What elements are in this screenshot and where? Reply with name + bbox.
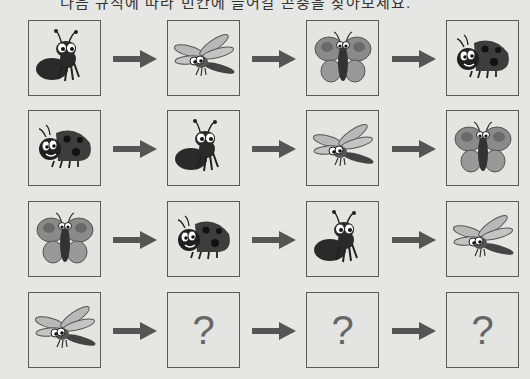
dragonfly-icon <box>32 297 98 363</box>
right-arrow-icon <box>392 231 436 249</box>
butterfly-icon <box>450 115 516 181</box>
butterfly-card <box>306 20 379 96</box>
dragonfly-card <box>28 292 101 368</box>
right-arrow-icon <box>113 50 157 68</box>
right-arrow-icon <box>252 50 296 68</box>
ant-card <box>167 110 240 186</box>
answer-blank-card[interactable]: ? <box>446 292 519 368</box>
dragonfly-icon <box>171 25 237 91</box>
dragonfly-card <box>306 110 379 186</box>
right-arrow-icon <box>113 140 157 158</box>
right-arrow-icon <box>113 231 157 249</box>
butterfly-icon <box>32 206 98 272</box>
right-arrow-icon <box>392 140 436 158</box>
answer-blank-card[interactable]: ? <box>306 292 379 368</box>
question-mark: ? <box>192 310 214 350</box>
ant-icon <box>310 206 376 272</box>
ant-icon <box>171 115 237 181</box>
dragonfly-icon <box>450 206 516 272</box>
ant-card <box>28 20 101 96</box>
ant-icon <box>32 25 98 91</box>
ladybug-card <box>28 110 101 186</box>
right-arrow-icon <box>392 50 436 68</box>
dragonfly-card <box>167 20 240 96</box>
butterfly-card <box>28 201 101 277</box>
right-arrow-icon <box>252 140 296 158</box>
right-arrow-icon <box>113 322 157 340</box>
ladybug-icon <box>171 206 237 272</box>
right-arrow-icon <box>252 322 296 340</box>
instruction-title: 다음 규칙에 따라 빈칸에 들어갈 곤충을 찾아보세요. <box>60 0 411 12</box>
ladybug-icon <box>450 25 516 91</box>
answer-blank-card[interactable]: ? <box>167 292 240 368</box>
ladybug-card <box>167 201 240 277</box>
dragonfly-icon <box>310 115 376 181</box>
ladybug-card <box>446 20 519 96</box>
right-arrow-icon <box>252 231 296 249</box>
right-arrow-icon <box>392 322 436 340</box>
butterfly-icon <box>310 25 376 91</box>
butterfly-card <box>446 110 519 186</box>
ladybug-icon <box>32 115 98 181</box>
question-mark: ? <box>331 310 353 350</box>
dragonfly-card <box>446 201 519 277</box>
ant-card <box>306 201 379 277</box>
question-mark: ? <box>471 310 493 350</box>
